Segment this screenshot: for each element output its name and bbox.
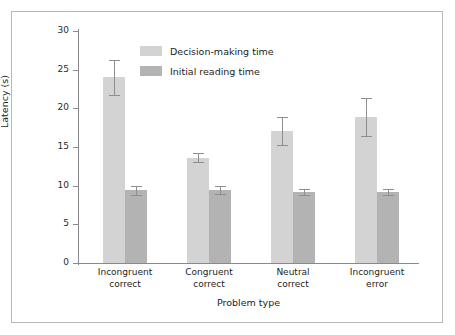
error-bar — [198, 153, 199, 162]
bar — [355, 117, 377, 263]
legend-item: Initial reading time — [140, 63, 274, 79]
bar — [187, 158, 209, 263]
bar — [103, 77, 125, 263]
y-tick-label: 25 — [58, 64, 69, 75]
error-bar-cap-lower — [299, 195, 310, 196]
y-axis-title: Latency (s) — [0, 75, 10, 128]
y-tick-label: 5 — [63, 218, 69, 229]
y-tick-label: 20 — [58, 102, 69, 113]
bar — [377, 192, 399, 263]
bar — [209, 190, 231, 263]
error-bar — [366, 98, 367, 137]
error-bar — [282, 117, 283, 145]
x-axis-category-line: Incongruent — [317, 267, 437, 279]
x-axis-category-line: error — [317, 279, 437, 291]
error-bar-cap-upper — [299, 189, 310, 190]
error-bar-cap-upper — [193, 153, 204, 154]
error-bar — [114, 60, 115, 96]
error-bar-cap-lower — [361, 136, 372, 137]
legend-swatch — [140, 46, 162, 56]
legend-label: Initial reading time — [170, 66, 260, 77]
bar — [125, 190, 147, 263]
error-bar-cap-upper — [383, 189, 394, 190]
legend-swatch — [140, 66, 162, 76]
error-bar — [220, 186, 221, 194]
error-bar-cap-upper — [215, 186, 226, 187]
bar-group: Incongruenterror — [355, 31, 399, 263]
error-bar-cap-upper — [109, 60, 120, 61]
bar — [271, 131, 293, 263]
x-axis-line — [78, 263, 419, 264]
legend-label: Decision-making time — [170, 46, 274, 57]
error-bar-cap-lower — [215, 194, 226, 195]
error-bar-cap-upper — [277, 117, 288, 118]
error-bar-cap-lower — [131, 195, 142, 196]
figure-root: Latency (s) Problem type 051015202530 In… — [0, 0, 455, 335]
bar-group: Neutralcorrect — [271, 31, 315, 263]
y-tick-label: 30 — [58, 25, 69, 36]
y-tick-label: 15 — [58, 141, 69, 152]
error-bar-cap-upper — [131, 186, 142, 187]
error-bar-cap-lower — [383, 195, 394, 196]
error-bar-cap-lower — [277, 145, 288, 146]
bar — [293, 192, 315, 263]
legend: Decision-making timeInitial reading time — [140, 43, 274, 83]
error-bar-cap-lower — [193, 162, 204, 163]
error-bar — [136, 186, 137, 195]
y-tick-label: 10 — [58, 180, 69, 191]
y-tick-mark — [73, 263, 78, 264]
x-axis-title: Problem type — [78, 297, 419, 308]
y-axis-tick: 0 — [73, 263, 78, 264]
error-bar-cap-lower — [109, 95, 120, 96]
x-axis-category-label: Incongruenterror — [317, 267, 437, 290]
error-bar-cap-upper — [361, 98, 372, 99]
legend-item: Decision-making time — [140, 43, 274, 59]
